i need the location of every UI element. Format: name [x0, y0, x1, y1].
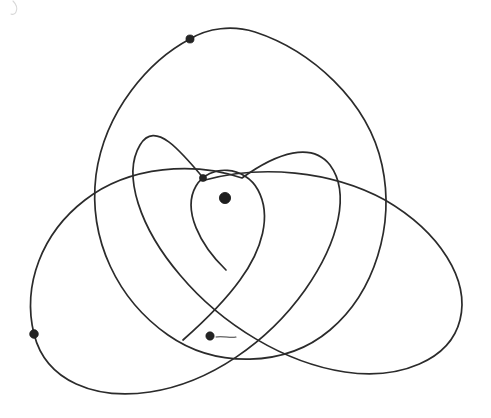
central-mass-marker [219, 192, 230, 203]
orbiting-body-inner-marker [199, 174, 206, 181]
ink-smudge-mark [216, 337, 236, 338]
figure-root: Hand-drawn trajectory diagram: three lar… [0, 0, 491, 418]
orbiting-body-top-marker [186, 35, 194, 43]
orbiting-body-left-marker [30, 330, 39, 339]
orbiting-body-bottom-marker [206, 332, 214, 340]
orbital-trajectory-diagram [0, 0, 491, 418]
